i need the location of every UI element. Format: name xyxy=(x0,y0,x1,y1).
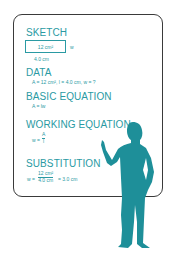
person-presenting-silhouette-icon xyxy=(0,0,175,262)
